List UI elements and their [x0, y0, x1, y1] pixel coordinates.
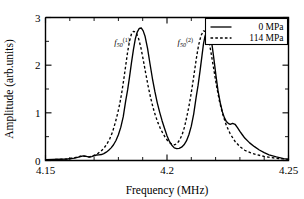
x-tick-label-1: 4.2 [160, 164, 174, 176]
y-tick-label-1: 1 [35, 107, 41, 119]
y-axis-minor-ticks [46, 41, 289, 136]
x-axis-title: Frequency (MHz) [126, 184, 209, 197]
chart-canvas: 4.154.24.25 0123 Frequency (MHz) Amplitu… [0, 0, 304, 199]
legend: 0 MPa 114 MPa [206, 19, 288, 45]
peak-label-2: f50(2) [178, 37, 193, 48]
y-axis-title: Amplitude (arb.units) [3, 39, 16, 139]
y-tick-label-0: 0 [35, 155, 41, 167]
x-axis-tick-labels: 4.154.24.25 [36, 164, 299, 176]
y-axis-tick-labels: 0123 [35, 12, 41, 167]
y-tick-label-3: 3 [35, 12, 41, 24]
peak-label-1: f50(1) [114, 37, 129, 48]
y-tick-label-2: 2 [35, 59, 41, 71]
legend-label-114-mpa: 114 MPa [249, 33, 284, 43]
legend-label-0-mpa: 0 MPa [258, 22, 284, 32]
resonance-spectrum-figure: 4.154.24.25 0123 Frequency (MHz) Amplitu… [0, 0, 304, 199]
peak-annotations: f50(1)f50(2) [114, 37, 193, 48]
x-tick-label-2: 4.25 [279, 164, 299, 176]
series-line-114-mpa [46, 31, 289, 160]
